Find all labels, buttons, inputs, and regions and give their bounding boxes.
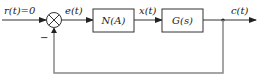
intermediate-label: x(t): [139, 5, 157, 16]
nonlinear-block-label: N(A): [101, 15, 126, 26]
minus-sign: −: [40, 32, 48, 43]
input-label: r(t)=0: [4, 5, 36, 16]
output-label: c(t): [231, 5, 249, 16]
error-label: e(t): [65, 5, 83, 16]
summing-junction: [47, 13, 62, 28]
feedback-arrowhead: [51, 28, 57, 34]
block-diagram: r(t)=0 − e(t) N(A) x(t) G(s) c(t): [0, 0, 265, 83]
plant-block-label: G(s): [172, 15, 193, 26]
